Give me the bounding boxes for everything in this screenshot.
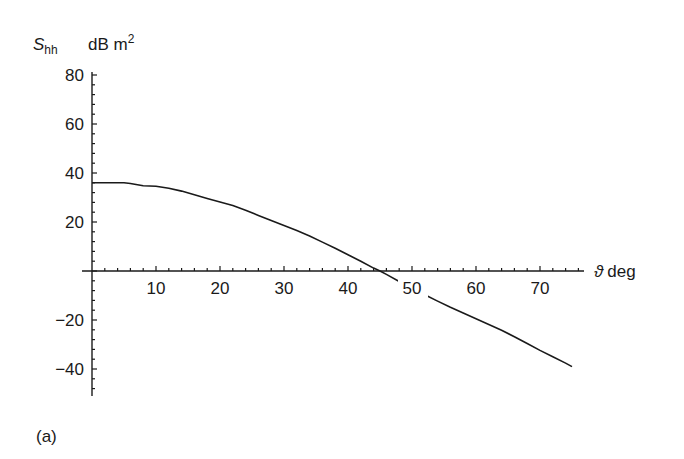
x-axis-label: ϑdeg [594,262,636,281]
y-tick-labels: 80604020−20−40 [55,66,84,379]
y-tick-label: 20 [65,213,84,232]
x-tick-label: 70 [531,279,550,298]
x-tick-label: 50 [403,279,422,298]
y-axis-label: Shh [33,35,58,57]
data-curve [92,183,572,367]
y-tick-label: −20 [55,311,84,330]
y-tick-label: −40 [55,360,84,379]
x-tick-labels: 10203040506070 [147,279,550,298]
x-tick-label: 40 [339,279,358,298]
x-axis-unit: deg [607,262,635,281]
y-tick-label: 40 [65,164,84,183]
x-tick-label: 30 [275,279,294,298]
axes [82,72,584,396]
chart: Shh dB m2 10203040506070 80604020−20−40 … [0,0,684,459]
x-tick-label: 20 [211,279,230,298]
x-ticks [105,266,579,271]
y-axis-unit-text: dB m [88,35,128,54]
y-tick-label: 60 [65,115,84,134]
y-axis-subscript: hh [44,43,57,57]
y-axis-unit-superscript: 2 [128,32,135,46]
y-ticks [92,75,97,389]
y-axis-unit: dB m2 [88,32,135,54]
panel-label: (a) [36,427,57,446]
x-tick-label: 10 [147,279,166,298]
y-axis-symbol: S [33,35,45,54]
x-tick-label: 60 [467,279,486,298]
y-tick-label: 80 [65,66,84,85]
x-axis-symbol: ϑ [594,262,604,281]
